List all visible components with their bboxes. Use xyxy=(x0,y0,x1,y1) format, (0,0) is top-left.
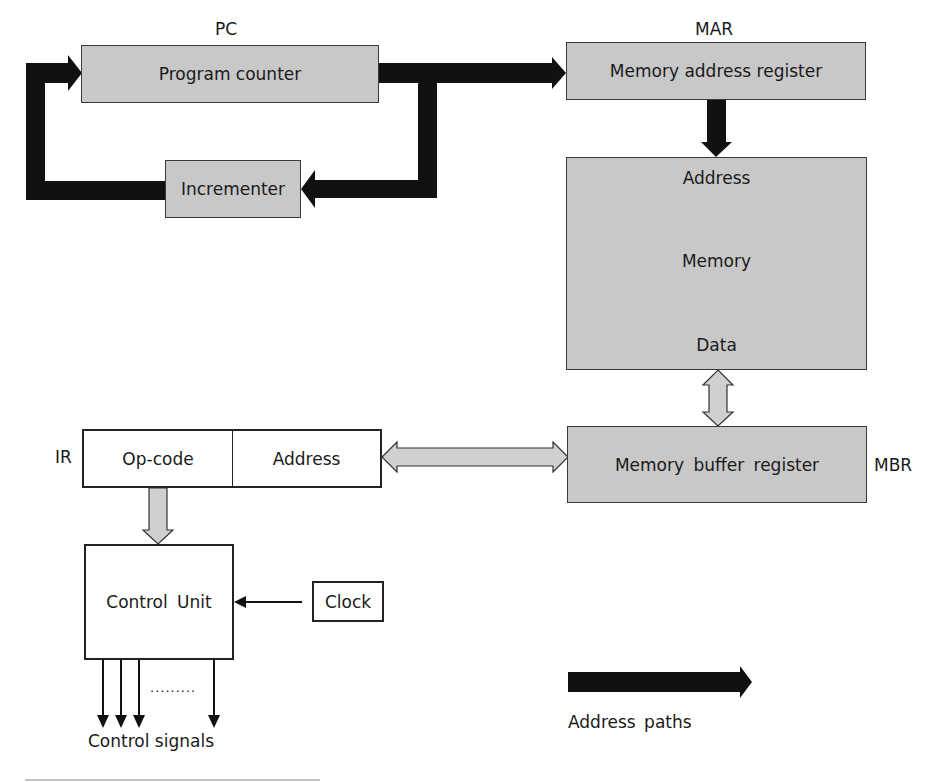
program-counter-box: Program counter xyxy=(81,45,379,103)
mbr-tag: MBR xyxy=(874,455,912,475)
data-path-opcode-to-control-unit xyxy=(143,488,173,544)
legend-address-paths-label: Address paths xyxy=(568,712,692,732)
memory-box: Address Memory Data xyxy=(566,157,867,370)
bottom-rule xyxy=(25,779,320,781)
control-unit-box: Control Unit xyxy=(84,544,234,660)
pc-tag: PC xyxy=(215,19,237,39)
ir-address-label: Address xyxy=(273,449,341,469)
legend-address-path-arrow xyxy=(568,666,752,698)
control-unit-label: Control Unit xyxy=(106,592,211,612)
incrementer-label: Incrementer xyxy=(181,179,285,199)
memory-buffer-register-box: Memory buffer register xyxy=(567,426,867,503)
ir-opcode-field: Op-code xyxy=(82,429,233,488)
clock-signal-arrow xyxy=(234,596,302,608)
address-path-pc-to-mar xyxy=(379,57,566,89)
memory-address-port-label: Address xyxy=(567,168,866,188)
clock-box: Clock xyxy=(312,581,384,622)
memory-data-port-label: Data xyxy=(567,335,866,355)
ir-tag: IR xyxy=(55,447,72,467)
ir-address-field: Address xyxy=(232,429,382,488)
connections-layer xyxy=(0,0,936,782)
data-path-ir-mbr xyxy=(382,442,568,472)
data-path-memory-mbr xyxy=(703,370,733,426)
clock-label: Clock xyxy=(325,592,371,612)
ir-opcode-label: Op-code xyxy=(122,449,193,469)
memory-address-register-box: Memory address register xyxy=(566,42,866,100)
memory-label: Memory xyxy=(567,251,866,271)
control-signals-label: Control signals xyxy=(88,731,214,751)
mar-tag: MAR xyxy=(695,19,733,39)
address-path-mar-to-memory xyxy=(701,100,732,157)
memory-buffer-register-label: Memory buffer register xyxy=(615,455,819,475)
control-signals-ellipsis: ......... xyxy=(150,680,196,695)
program-counter-label: Program counter xyxy=(159,64,302,84)
incrementer-box: Incrementer xyxy=(165,160,301,218)
memory-address-register-label: Memory address register xyxy=(610,61,822,81)
